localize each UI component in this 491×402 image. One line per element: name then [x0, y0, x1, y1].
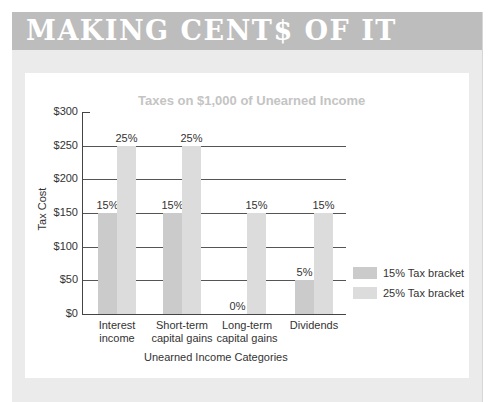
x-category-label: Dividends [274, 319, 354, 332]
bar-15 [163, 213, 182, 314]
y-tick-label: $100 [38, 240, 78, 252]
bar-15 [295, 280, 314, 314]
legend-swatch-15 [353, 267, 377, 279]
x-category-label-line: capital gains [207, 332, 287, 345]
bar-25 [247, 213, 266, 314]
legend-label: 25% Tax bracket [383, 287, 464, 299]
legend-label: 15% Tax bracket [383, 267, 464, 279]
chart-title: Taxes on $1,000 of Unearned Income [138, 93, 365, 108]
bar-15 [98, 213, 117, 314]
banner: MAKING CENT$ OF IT [12, 12, 482, 50]
bar-25 [117, 146, 136, 314]
legend-swatch-25 [353, 287, 377, 299]
legend-item-25: 25% Tax bracket [353, 286, 464, 300]
y-tick-label: $50 [38, 273, 78, 285]
x-axis [82, 314, 346, 315]
y-tick-mark [82, 112, 90, 113]
y-tick-label: $300 [38, 105, 78, 117]
x-category-label-line: Dividends [274, 319, 354, 332]
x-axis-title: Unearned Income Categories [144, 351, 288, 363]
y-tick-label: $0 [38, 307, 78, 319]
bar-value-label: 15% [309, 199, 339, 211]
y-axis [82, 112, 83, 315]
bar-value-label: 15% [242, 199, 272, 211]
bar-25 [182, 146, 201, 314]
bar-25 [314, 213, 333, 314]
legend-item-15: 15% Tax bracket [353, 266, 464, 280]
y-axis-title: Tax Cost [36, 179, 48, 239]
y-tick-label: $250 [38, 139, 78, 151]
bar-value-label: 25% [112, 132, 142, 144]
bar-value-label: 25% [177, 132, 207, 144]
banner-title: MAKING CENT$ OF IT [26, 15, 397, 46]
